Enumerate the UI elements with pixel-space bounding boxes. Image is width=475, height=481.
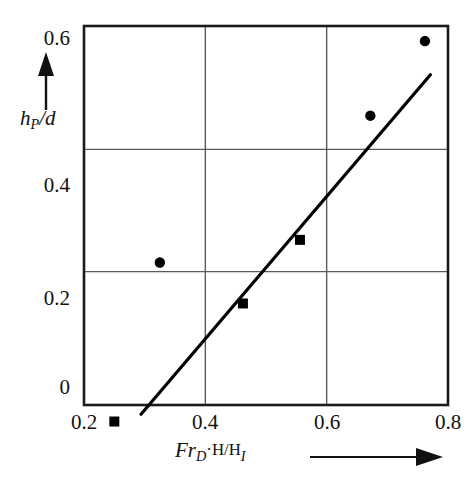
y-tick-label-0.4: 0.4 [12, 175, 70, 196]
data-markers [109, 36, 430, 427]
plot-frame [84, 26, 448, 405]
trend-line [141, 75, 430, 414]
y-axis-title: hP/d [20, 108, 56, 131]
scatter-plot-canvas [0, 0, 475, 481]
data-point-square [295, 235, 305, 245]
y-axis-arrow [38, 52, 54, 110]
x-axis-title-sub-d: D [196, 448, 206, 464]
data-point-circle [420, 36, 430, 46]
x-tick-label-0.2: 0.2 [54, 412, 114, 433]
data-point-circle [155, 257, 165, 267]
y-axis-title-sub: P [31, 116, 40, 132]
x-axis-arrow [310, 448, 443, 466]
x-axis-title-mid: ·H/H [206, 440, 241, 459]
y-tick-label-0.2: 0.2 [12, 288, 70, 309]
data-point-circle [365, 110, 375, 120]
x-tick-label-0.8: 0.8 [418, 412, 475, 433]
x-axis-title-sub-i: I [241, 448, 246, 464]
x-tick-label-0.4: 0.4 [175, 412, 235, 433]
y-tick-label-0.6: 0.6 [12, 28, 70, 49]
x-axis-title-prefix: Fr [175, 438, 196, 462]
x-axis-title: FrD·H/HI [175, 440, 246, 463]
y-axis-title-suffix: /d [39, 106, 55, 130]
chart-figure: 0.6 0.4 0.2 0 0.2 0.4 0.6 0.8 hP/d FrD·H… [0, 0, 475, 481]
y-axis-title-prefix: h [20, 106, 31, 130]
gridlines-horizontal [84, 149, 448, 271]
x-tick-label-0.6: 0.6 [297, 412, 357, 433]
y-tick-label-0: 0 [12, 377, 70, 398]
data-point-square [238, 298, 248, 308]
